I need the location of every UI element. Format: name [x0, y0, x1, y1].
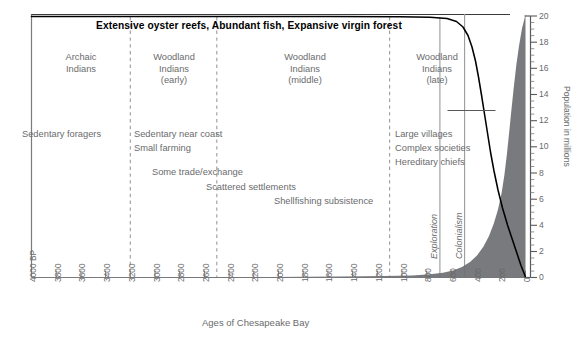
period-line: (early): [131, 75, 217, 87]
y-tick-label: 10: [539, 141, 549, 153]
x-axis-title: Ages of Chesapeake Bay: [202, 317, 309, 328]
period-line: (late): [390, 75, 484, 87]
x-tick-label: 1800: [300, 263, 310, 282]
period-line: Woodland: [240, 52, 370, 64]
period-line: Archaic: [36, 52, 126, 64]
period-line: Woodland: [390, 52, 484, 64]
period-line: Woodland: [131, 52, 217, 64]
y-tick-label: 16: [539, 63, 549, 75]
trait-hereditary-chiefs: Hereditary chiefs: [395, 157, 465, 169]
trait-large-villages: Large villages: [395, 129, 452, 141]
era-label-colonialism: Colonialism: [454, 212, 464, 259]
y-tick-label: 14: [539, 89, 549, 101]
x-tick-label: 2600: [201, 263, 211, 282]
period-label-woodland-middle: Woodland Indians (middle): [240, 52, 370, 87]
y-axis-title: Population in millions: [562, 86, 572, 167]
trait-shellfishing-subsistence: Shellfishing subsistence: [274, 196, 373, 208]
x-tick-label: 0: [522, 277, 532, 282]
trait-small-farming: Small farming: [134, 143, 191, 155]
trait-complex-societies: Complex societies: [395, 143, 470, 155]
y-tick-label: 8: [539, 168, 544, 180]
x-tick-label: 200: [497, 268, 507, 282]
x-tick-label: 800: [423, 268, 433, 282]
y-tick-label: 12: [539, 115, 549, 127]
x-tick-label: 400: [473, 268, 483, 282]
x-tick-label: 3000: [152, 263, 162, 282]
x-tick-label: 1600: [324, 263, 334, 282]
y-tick-label: 4: [539, 220, 544, 232]
x-tick-label: 2000: [275, 263, 285, 282]
era-label-exploration: Exploration: [429, 214, 439, 259]
x-tick-label: 2400: [226, 263, 236, 282]
x-tick-label: 1000: [399, 263, 409, 282]
period-line: Indians: [36, 64, 126, 76]
trait-sedentary-near-coast: Sedentary near coast: [134, 129, 222, 141]
period-label-woodland-early: Woodland Indians (early): [131, 52, 217, 87]
period-line: Indians: [131, 64, 217, 76]
y-tick-label: 20: [539, 11, 549, 23]
x-tick-label: 4000 BP: [28, 250, 38, 282]
period-line: Indians: [240, 64, 370, 76]
chart-title: Extensive oyster reefs, Abundant fish, E…: [96, 20, 402, 31]
x-tick-label: 600: [448, 268, 458, 282]
period-label-archaic: Archaic Indians: [36, 52, 126, 75]
x-tick-label: 1400: [349, 263, 359, 282]
trait-some-trade-exchange: Some trade/exchange: [152, 167, 243, 179]
y-tick-label: 18: [539, 37, 549, 49]
x-tick-label: 3400: [102, 263, 112, 282]
y-tick-label: 0: [539, 272, 544, 284]
x-tick-label: 3800: [53, 263, 63, 282]
trait-scattered-settlements: Scattered settlements: [206, 182, 296, 194]
y-tick-label: 6: [539, 194, 544, 206]
period-line: Indians: [390, 64, 484, 76]
period-label-woodland-late: Woodland Indians (late): [390, 52, 484, 87]
period-line: (middle): [240, 75, 370, 87]
x-tick-label: 2200: [250, 263, 260, 282]
chart-canvas: [0, 0, 575, 340]
x-tick-label: 2800: [176, 263, 186, 282]
chesapeake-bay-timeline-chart: Extensive oyster reefs, Abundant fish, E…: [0, 0, 575, 340]
x-tick-label: 3600: [77, 263, 87, 282]
x-tick-label: 1200: [374, 263, 384, 282]
x-tick-label: 3200: [127, 263, 137, 282]
trait-sedentary-foragers: Sedentary foragers: [22, 129, 101, 141]
y-tick-label: 2: [539, 246, 544, 258]
